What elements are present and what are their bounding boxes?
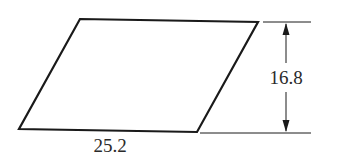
height-label: 16.8: [269, 67, 302, 88]
parallelogram-diagram: 16.8 25.2: [0, 0, 338, 165]
parallelogram: [19, 19, 258, 132]
base-label: 25.2: [93, 135, 126, 156]
arrow-down-icon: [283, 120, 290, 132]
arrow-up-icon: [283, 23, 290, 35]
